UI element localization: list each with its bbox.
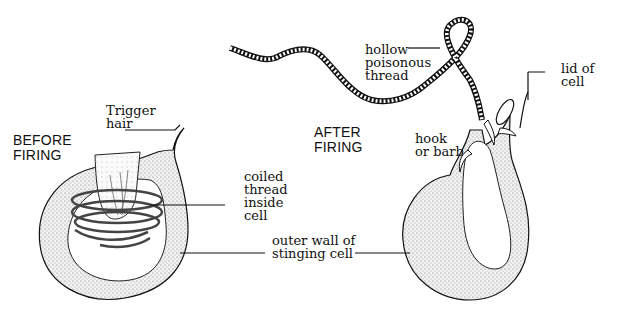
coiled-thread-label: coiled thread inside cell: [244, 170, 288, 222]
diagram-canvas: [0, 0, 621, 310]
hollow-thread-label: hollow poisonous thread: [365, 43, 431, 82]
hook-barb-label: hook or barb: [415, 132, 464, 158]
before-firing-title: BEFORE FIRING: [13, 133, 72, 163]
after-firing-title: AFTER FIRING: [314, 125, 363, 155]
outer-wall-label: outer wall of stinging cell: [272, 234, 355, 260]
hollow-thread: [230, 20, 482, 120]
after-firing-cell: [403, 92, 529, 300]
lid-of-cell-label: lid of cell: [561, 62, 594, 88]
trigger-hair-label: Trigger hair: [106, 104, 156, 130]
